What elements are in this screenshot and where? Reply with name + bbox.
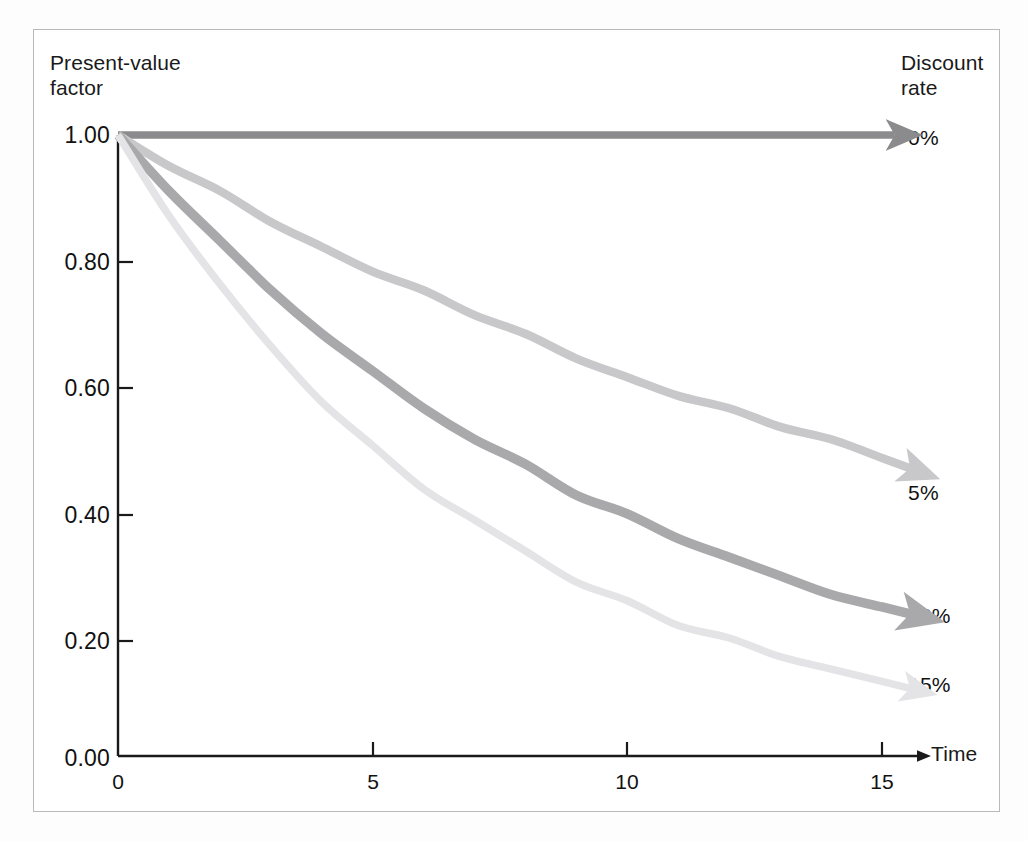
legend-item-5pct: 5% (908, 481, 939, 505)
y-tick-label: 1.00 (44, 122, 110, 149)
y-tick-label: 0.20 (44, 628, 110, 655)
legend-item-0pct: 0% (908, 126, 939, 150)
y-axis-title: Present-value factor (50, 50, 181, 100)
x-tick-label: 5 (353, 770, 393, 794)
legend-item-10pct: 10% (908, 604, 951, 628)
x-tick-label: 10 (607, 770, 647, 794)
x-tick-label: 15 (862, 770, 902, 794)
y-tick-label: 0.40 (44, 502, 110, 529)
x-tick-label: 0 (98, 770, 138, 794)
legend-item-15pct: 15% (908, 673, 951, 697)
legend-title: Discount rate (901, 50, 984, 100)
x-axis-title: Time (931, 741, 977, 766)
y-tick-label: 0.60 (44, 375, 110, 402)
y-tick-label: 0.80 (44, 249, 110, 276)
figure-root: Present-value factor Discount rate Time … (0, 0, 1028, 841)
y-tick-label: 0.00 (44, 745, 110, 772)
figure-frame (33, 29, 1000, 812)
